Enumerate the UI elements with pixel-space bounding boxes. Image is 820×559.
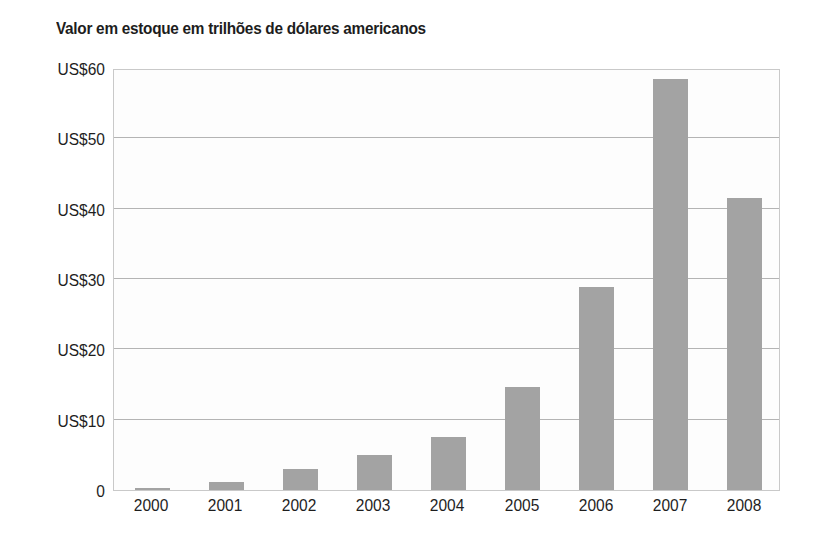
- x-axis-tick-label: 2000: [115, 497, 187, 515]
- x-axis-tick-label: 2002: [263, 497, 335, 515]
- x-axis-tick-label: 2005: [486, 497, 558, 515]
- x-axis-tick-label: 2003: [337, 497, 409, 515]
- x-axis: 200020012002200320042005200620072008: [113, 497, 780, 527]
- x-axis-tick-label: 2007: [634, 497, 706, 515]
- y-axis-tick-label: US$10: [8, 413, 105, 431]
- bars-layer: [114, 70, 779, 490]
- bar-2005: [505, 387, 540, 490]
- bar-2007: [653, 79, 688, 490]
- y-axis: 0US$10US$20US$30US$40US$50US$60: [0, 69, 105, 491]
- bar-2008: [727, 198, 762, 490]
- y-axis-tick-label: US$20: [8, 342, 105, 360]
- y-axis-tick-label: US$60: [8, 61, 105, 79]
- plot-area: [113, 69, 780, 491]
- chart-title: Valor em estoque em trilhões de dólares …: [56, 19, 426, 38]
- x-axis-tick-label: 2008: [708, 497, 780, 515]
- bar-2001: [209, 482, 244, 490]
- bar-2004: [431, 437, 466, 490]
- bar-2006: [579, 287, 614, 490]
- y-axis-tick-label: 0: [8, 483, 105, 501]
- x-axis-tick-label: 2004: [412, 497, 484, 515]
- y-axis-tick-label: US$30: [8, 272, 105, 290]
- x-axis-tick-label: 2006: [560, 497, 632, 515]
- bar-2000: [135, 488, 170, 490]
- y-axis-tick-label: US$40: [8, 202, 105, 220]
- x-axis-tick-label: 2001: [189, 497, 261, 515]
- chart-container: Valor em estoque em trilhões de dólares …: [0, 0, 820, 559]
- bar-2002: [283, 469, 318, 490]
- y-axis-tick-label: US$50: [8, 131, 105, 149]
- bar-2003: [357, 455, 392, 490]
